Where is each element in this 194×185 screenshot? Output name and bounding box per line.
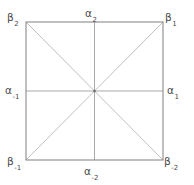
edge-label-right-base: α <box>167 84 174 96</box>
vertex-label-bottom-right: β-2 <box>164 156 178 170</box>
edge-label-top-base: α <box>85 7 92 19</box>
vertex-label-top-left-sub: 2 <box>14 20 18 28</box>
vertex-label-bottom-left-base: β <box>7 155 14 167</box>
edge-label-bottom-base: α <box>84 165 91 177</box>
edge-label-left-base: α <box>5 84 12 96</box>
vertex-label-top-left: β2 <box>7 12 18 26</box>
edge-label-bottom-sub: -2 <box>91 174 98 182</box>
vertex-label-bottom-left-sub: -1 <box>14 164 21 172</box>
vertex-label-bottom-left: β-1 <box>7 156 21 170</box>
edge-label-left: α-1 <box>5 85 19 99</box>
vertex-label-top-right-base: β <box>165 11 172 23</box>
vertex-label-top-left-base: β <box>7 11 14 23</box>
geometric-figure-container: β2 β1 β-1 β-2 α2 α-2 α-1 α1 <box>0 0 194 185</box>
center-point-dot <box>93 90 96 93</box>
vertex-label-top-right-sub: 1 <box>172 20 176 28</box>
vertex-label-top-right: β1 <box>165 12 176 26</box>
edge-label-bottom: α-2 <box>84 166 98 180</box>
edge-label-top: α2 <box>85 8 96 22</box>
edge-label-top-sub: 2 <box>92 16 96 24</box>
vertex-label-bottom-right-sub: -2 <box>171 164 178 172</box>
edge-label-right-sub: 1 <box>174 93 178 101</box>
edge-label-right: α1 <box>167 85 178 99</box>
edge-label-left-sub: -1 <box>12 93 19 101</box>
vertex-label-bottom-right-base: β <box>164 155 171 167</box>
